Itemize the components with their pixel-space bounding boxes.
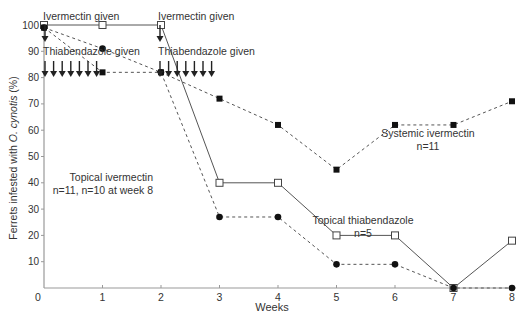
series-layer (41, 22, 516, 292)
chart: 102030405060708090100 012345678 Weeks Fe… (0, 0, 527, 321)
y-tick-label: 20 (28, 230, 40, 241)
arrowhead-icon (85, 71, 92, 77)
label-systemic-ivermectin-n: n=11 (417, 140, 440, 152)
arrowhead-icon (182, 71, 189, 77)
y-tick-label: 10 (28, 256, 40, 267)
arrowhead-icon (59, 71, 66, 77)
thiabendazole-given-label-2: Thiabendazole given (158, 45, 255, 57)
x-tick-label: 5 (334, 291, 340, 303)
y-tick-label: 80 (28, 72, 40, 83)
data-point-filled-square (275, 122, 281, 128)
data-point-filled-circle (450, 285, 457, 292)
y-axis-ticks: 102030405060708090100 (22, 20, 44, 268)
arrowhead-icon (165, 71, 172, 77)
data-point-filled-square (217, 96, 223, 102)
x-tick-label: 1 (100, 291, 106, 303)
data-point-filled-square (509, 98, 515, 104)
x-tick-label: 7 (451, 291, 457, 303)
data-point-filled-circle (275, 214, 282, 221)
data-point-open-square (392, 232, 399, 239)
ivermectin-given-label-2: Ivermectin given (158, 10, 235, 22)
data-point-filled-square (41, 25, 47, 31)
data-point-open-square (275, 179, 282, 186)
y-tick-label: 40 (28, 177, 40, 188)
thiabendazole-given-label-1: Thiabendazole given (43, 45, 140, 57)
y-tick-label: 100 (22, 20, 39, 31)
label-systemic-ivermectin: Systemic ivermectin (381, 127, 475, 139)
y-tick-label: 60 (28, 125, 40, 136)
arrowhead-icon (67, 71, 74, 77)
x-tick-label: 0 (35, 291, 41, 303)
arrowhead-icon (42, 71, 49, 77)
y-tick-label: 50 (28, 151, 40, 162)
ivermectin-given-label-1: Ivermectin given (43, 10, 120, 22)
label-topical-thiabendazole-n: n=5 (354, 227, 372, 239)
data-point-open-square (216, 179, 223, 186)
x-tick-label: 6 (392, 291, 398, 303)
y-tick-label: 70 (28, 98, 40, 109)
arrowhead-icon (208, 71, 215, 77)
data-point-filled-square (100, 69, 106, 75)
label-topical-ivermectin: Topical ivermectin (70, 171, 154, 183)
arrowhead-icon (50, 71, 57, 77)
x-tick-label: 2 (158, 291, 164, 303)
data-point-filled-circle (333, 261, 340, 268)
y-axis-label: Ferrets infested with O. cynotis (%) (7, 76, 19, 239)
arrowhead-icon (76, 71, 83, 77)
series-topical-thiabendazole (41, 22, 516, 292)
series-topical-ivermectin (41, 24, 516, 291)
data-point-open-square (158, 22, 165, 29)
arrowhead-icon (42, 36, 49, 42)
data-point-open-square (333, 232, 340, 239)
x-tick-label: 8 (509, 291, 515, 303)
arrowhead-icon (157, 36, 164, 42)
data-point-filled-circle (216, 214, 223, 221)
arrowhead-icon (93, 71, 100, 77)
data-point-open-square (509, 237, 516, 244)
arrowhead-icon (191, 71, 198, 77)
data-point-filled-square (334, 167, 340, 173)
data-point-filled-circle (509, 285, 516, 292)
x-axis-label: Weeks (255, 301, 289, 313)
x-tick-label: 3 (217, 291, 223, 303)
data-point-filled-circle (392, 261, 399, 268)
axes (44, 23, 516, 288)
arrowhead-icon (200, 71, 207, 77)
label-topical-thiabendazole: Topical thiabendazole (313, 214, 414, 226)
y-tick-label: 30 (28, 204, 40, 215)
label-topical-ivermectin-n: n=11, n=10 at week 8 (53, 184, 153, 196)
data-point-open-square (99, 22, 106, 29)
y-tick-label: 90 (28, 46, 40, 57)
